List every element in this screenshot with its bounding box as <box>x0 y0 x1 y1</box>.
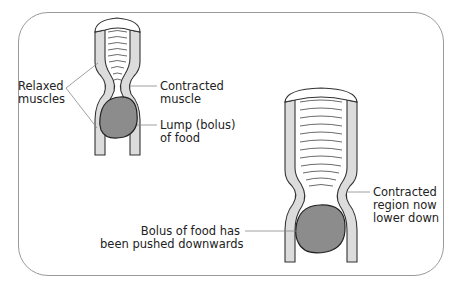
label-line: muscle <box>160 93 224 106</box>
label-line: of food <box>160 132 235 145</box>
label-line: lower down <box>373 212 439 225</box>
label-line: muscles <box>18 93 62 106</box>
label-contracted-region: Contracted region now lower down <box>373 186 439 225</box>
label-line: been pushed downwards <box>100 238 240 251</box>
label-lump-of-food: Lump (bolus) of food <box>160 119 235 145</box>
tube-after <box>285 88 357 262</box>
bolus-before <box>100 97 138 138</box>
label-relaxed-muscles: Relaxed muscles <box>18 80 62 106</box>
label-bolus-pushed: Bolus of food has been pushed downwards <box>100 225 240 251</box>
bolus-after <box>296 205 345 253</box>
tube-before <box>95 18 140 155</box>
label-contracted-muscle: Contracted muscle <box>160 80 224 106</box>
